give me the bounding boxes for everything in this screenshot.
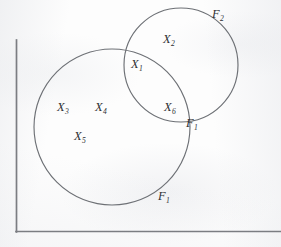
point-label-x1: X1	[131, 58, 143, 71]
diagram-canvas	[0, 0, 281, 247]
point-label-x6: X6	[164, 101, 176, 114]
set-label-f1-outer: F1	[158, 190, 170, 203]
axis-group	[16, 40, 281, 232]
point-label-x4: X4	[95, 101, 107, 114]
set-label-f2: F2	[212, 8, 224, 21]
point-label-x3: X3	[57, 101, 69, 114]
point-label-x5: X5	[74, 130, 86, 143]
figure-container: X1 X2 X3 X4 X5 X6 F2 F1 F1	[0, 0, 281, 247]
set-label-f1-node: F1	[186, 117, 198, 130]
large-set-circle-f1	[34, 49, 190, 205]
point-label-x2: X2	[163, 33, 175, 46]
